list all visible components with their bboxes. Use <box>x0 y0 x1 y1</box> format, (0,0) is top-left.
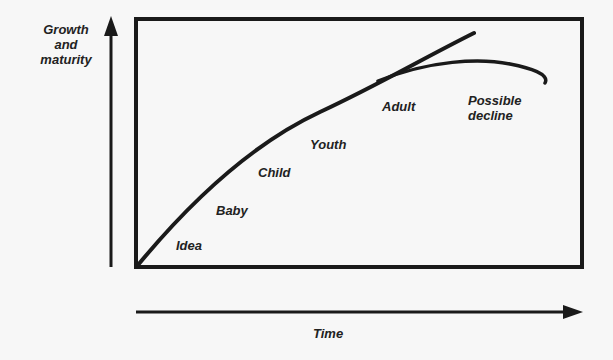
stage-child: Child <box>258 165 291 180</box>
plot-frame <box>136 19 582 267</box>
y-label-line-1: Growth <box>31 22 101 37</box>
stage-baby: Baby <box>216 203 248 218</box>
y-axis-label: Growth and maturity <box>31 22 101 67</box>
decline-line-1: Possible <box>468 93 521 108</box>
y-label-line-3: maturity <box>31 52 101 67</box>
x-axis-arrowhead <box>563 305 583 319</box>
decline-curve <box>378 61 546 83</box>
y-axis-arrowhead <box>104 16 118 36</box>
stage-possible-decline: Possible decline <box>468 93 521 123</box>
stage-idea: Idea <box>176 238 202 253</box>
x-axis-label: Time <box>313 326 343 341</box>
y-label-line-2: and <box>31 37 101 52</box>
stage-adult: Adult <box>382 99 415 114</box>
stage-youth: Youth <box>310 137 346 152</box>
decline-line-2: decline <box>468 108 521 123</box>
